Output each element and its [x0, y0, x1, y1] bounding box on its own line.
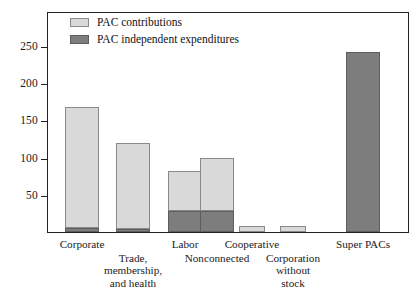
- x-axis-category-line: stock: [281, 277, 305, 289]
- legend-swatch-icon: [70, 18, 89, 27]
- bar-segment-independent-expenditures: [200, 211, 234, 232]
- chart-legend: PAC contributions PAC independent expend…: [70, 16, 239, 50]
- bar-segment-contributions: [280, 226, 306, 232]
- bar: [346, 52, 380, 232]
- x-axis-category-line: and health: [110, 277, 156, 289]
- x-axis-category-label: Trade,membership,and health: [85, 252, 181, 289]
- bar-segment-independent-expenditures: [168, 211, 202, 232]
- x-axis-category-label: Cooperative: [204, 238, 300, 250]
- bar: [116, 143, 150, 232]
- bar-segment-independent-expenditures: [346, 52, 380, 232]
- y-tick: [41, 121, 48, 122]
- bar: [65, 107, 99, 232]
- y-tick: [41, 84, 48, 85]
- legend-item-label: PAC independent expenditures: [97, 33, 239, 46]
- x-axis-category-label: Corporate: [34, 238, 130, 250]
- bar-segment-independent-expenditures: [65, 228, 99, 232]
- y-axis-label: 250: [20, 41, 38, 53]
- bar-segment-contributions: [168, 171, 202, 211]
- x-axis-category-line: Nonconnected: [185, 252, 250, 264]
- y-axis-label: 100: [20, 153, 38, 165]
- bar-segment-independent-expenditures: [116, 229, 150, 232]
- legend-swatch-icon: [70, 35, 89, 44]
- x-axis-category-line: Corporate: [60, 238, 105, 250]
- x-axis-category-line: membership,: [104, 264, 162, 276]
- x-axis-category-line: Cooperative: [225, 238, 280, 250]
- bar: [200, 158, 234, 232]
- bar: [239, 226, 265, 232]
- y-tick: [41, 159, 48, 160]
- y-tick: [41, 47, 48, 48]
- bar-segment-contributions: [116, 143, 150, 229]
- legend-item-label: PAC contributions: [97, 16, 182, 29]
- y-axis-label: 200: [20, 78, 38, 90]
- y-tick: [41, 196, 48, 197]
- legend-item: PAC independent expenditures: [70, 33, 239, 46]
- bar-chart: 250 200 150 100 50 PAC contributions PAC…: [0, 0, 417, 295]
- y-axis-label: 50: [26, 190, 38, 202]
- bar: [280, 226, 306, 232]
- bar-segment-contributions: [200, 158, 234, 211]
- bar-segment-contributions: [65, 107, 99, 228]
- bar-segment-contributions: [239, 226, 265, 232]
- x-axis-category-line: Trade,: [119, 252, 148, 264]
- y-axis-label: 150: [20, 115, 38, 127]
- x-axis-category-label: Super PACs: [315, 238, 411, 250]
- x-axis-category-line: without: [276, 264, 310, 276]
- bar: [168, 171, 202, 232]
- x-axis-category-line: Super PACs: [336, 238, 390, 250]
- x-axis-category-line: Corporation: [266, 252, 320, 264]
- x-axis-category-label: Corporationwithoutstock: [245, 252, 341, 289]
- legend-item: PAC contributions: [70, 16, 239, 29]
- x-axis-category-line: Labor: [172, 238, 199, 250]
